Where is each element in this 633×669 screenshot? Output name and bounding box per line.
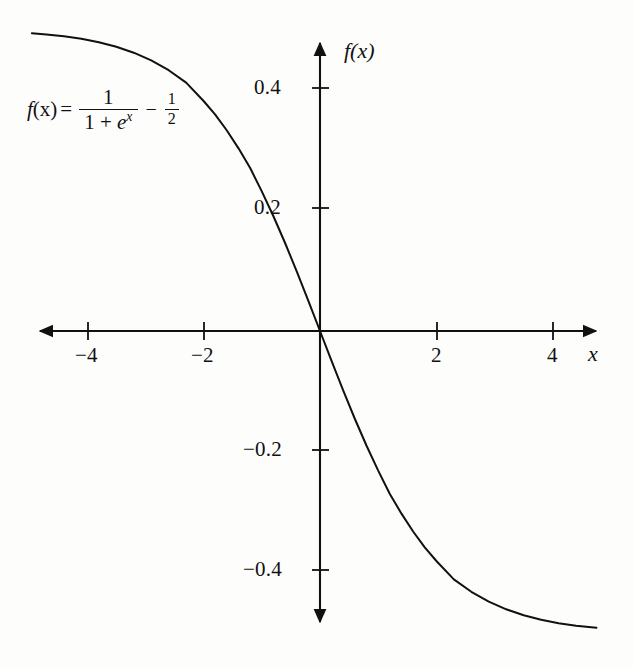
x-tick-label-minus-2: −2 — [191, 345, 214, 366]
formula-frac1-den-exponent: x — [126, 109, 132, 124]
y-tick-label-minus-0.4: −0.4 — [243, 559, 282, 580]
formula-fraction-2: 1 2 — [165, 91, 179, 128]
y-axis-label: f(x) — [344, 40, 375, 62]
y-tick-label-0.4: 0.4 — [254, 77, 281, 98]
formula-equals: = — [60, 97, 72, 122]
formula-lhs-arg: (x) — [33, 97, 58, 122]
x-tick-label-2: 2 — [431, 345, 442, 366]
formula-annotation: f(x) = 1 1 + ex − 1 2 — [27, 86, 179, 133]
formula-frac2-denominator: 2 — [165, 110, 179, 128]
formula-fraction-1: 1 1 + ex — [79, 86, 137, 133]
x-tick-label-4: 4 — [547, 345, 558, 366]
formula-frac1-denominator: 1 + ex — [79, 110, 137, 133]
x-tick-label-minus-4: −4 — [75, 345, 98, 366]
y-tick-label-0.2: 0.2 — [254, 197, 281, 218]
formula-operator: − — [146, 98, 157, 121]
chart-figure: 0.4 0.2 −0.2 −0.4 −4 −2 2 4 f(x) x f(x) … — [0, 0, 633, 669]
formula-frac1-den-text: 1 + — [84, 110, 117, 134]
formula-frac1-den-e: e — [117, 110, 126, 134]
formula-frac2-numerator: 1 — [165, 91, 179, 109]
y-tick-label-minus-0.2: −0.2 — [243, 439, 282, 460]
x-axis-label: x — [588, 343, 598, 365]
formula-frac1-numerator: 1 — [98, 86, 119, 109]
